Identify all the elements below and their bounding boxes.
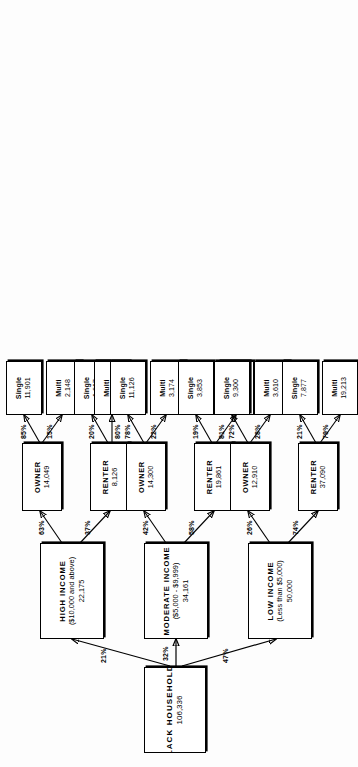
node-high-owner[interactable]: OWNER 14,049 <box>22 443 62 511</box>
leaf-label: Multi <box>55 379 64 397</box>
node-label: RENTER <box>205 460 214 495</box>
leaf-low-renter-single[interactable]: Single 7,877 <box>282 361 318 415</box>
node-label: OWNER <box>241 461 250 493</box>
leaf-value: 11,126 <box>128 377 137 398</box>
pct-high-renter-single: 20% <box>88 424 95 439</box>
leaf-label: Multi <box>159 379 168 397</box>
leaf-value: 19,213 <box>340 377 349 399</box>
leaf-value: 3,610 <box>272 379 281 397</box>
pct-high-owner-single: 85% <box>20 424 27 439</box>
pct-moderate-owner-multi: 22% <box>150 424 157 439</box>
leaf-label: Multi <box>263 379 272 397</box>
node-label: OWNER <box>33 461 42 493</box>
node-value: 34,161 <box>181 580 190 603</box>
node-high-income[interactable]: HIGH INCOME ($10,000 and above) 22,175 <box>40 543 104 639</box>
node-range: (Less than $5,000) <box>275 560 284 622</box>
leaf-value: 9,300 <box>232 379 241 397</box>
node-low-income[interactable]: LOW INCOME (Less than $5,000) 50,000 <box>248 543 312 639</box>
pct-high-income: 21% <box>100 648 107 663</box>
pct-high-renter: 37% <box>84 520 91 535</box>
node-range: ($10,000 and above) <box>67 557 76 625</box>
node-value: 19,861 <box>214 466 223 489</box>
leaf-label: Single <box>187 377 196 400</box>
leaf-moderate-owner-single[interactable]: Single 11,126 <box>110 361 146 415</box>
node-range: ($5,000 - $9,999) <box>171 563 180 620</box>
node-low-renter[interactable]: RENTER 37,090 <box>298 443 338 511</box>
pct-low-renter-multi: 79% <box>322 424 329 439</box>
node-value: 12,910 <box>250 466 259 489</box>
leaf-label: Multi <box>331 379 340 397</box>
pct-moderate-income: 32% <box>162 646 169 661</box>
leaf-label: Single <box>15 377 24 400</box>
node-label: OWNER <box>137 461 146 493</box>
pct-low-owner-single: 72% <box>228 424 235 439</box>
leaf-moderate-renter-single[interactable]: Single 3,853 <box>178 361 214 415</box>
pct-low-renter: 74% <box>292 520 299 535</box>
pct-low-income: 47% <box>222 648 229 663</box>
leaf-value: 11,901 <box>24 377 33 398</box>
leaf-label: Single <box>291 377 300 400</box>
node-value: 8,126 <box>110 468 119 487</box>
node-value: 50,000 <box>285 580 294 603</box>
node-value: 14,049 <box>42 466 51 489</box>
node-high-renter[interactable]: RENTER 8,126 <box>90 443 130 511</box>
leaf-value: 2,148 <box>64 379 73 397</box>
pct-moderate-owner: 42% <box>142 520 149 535</box>
node-label: MODERATE INCOME <box>162 547 172 636</box>
leaf-label: Single <box>119 377 128 400</box>
pct-high-owner-multi: 15% <box>46 424 53 439</box>
node-value: 14,300 <box>146 466 155 489</box>
node-label: BLACK HOUSEHOLDS <box>165 667 175 753</box>
node-black-households[interactable]: BLACK HOUSEHOLDS 106,336 <box>144 667 206 753</box>
node-label: LOW INCOME <box>266 561 276 620</box>
pct-moderate-renter-single: 19% <box>192 424 199 439</box>
node-label: HIGH INCOME <box>58 560 68 621</box>
node-label: RENTER <box>101 460 110 495</box>
pct-low-owner-multi: 28% <box>254 424 261 439</box>
pct-low-renter-single: 21% <box>296 424 303 439</box>
leaf-value: 3,853 <box>196 379 205 397</box>
leaf-low-renter-multi[interactable]: Multi 19,213 <box>322 361 358 415</box>
leaf-low-owner-single[interactable]: Single 9,300 <box>214 361 250 415</box>
node-value: 22,175 <box>77 580 86 603</box>
pct-high-renter-multi: 80% <box>114 424 121 439</box>
node-moderate-owner[interactable]: OWNER 14,300 <box>126 443 166 511</box>
node-label: RENTER <box>309 460 318 495</box>
pct-high-owner: 63% <box>38 520 45 535</box>
node-value: 37,090 <box>318 466 327 489</box>
leaf-label: Single <box>223 377 232 400</box>
leaf-label: Single <box>83 377 92 400</box>
node-moderate-renter[interactable]: RENTER 19,861 <box>194 443 234 511</box>
pct-moderate-owner-single: 78% <box>124 424 131 439</box>
pct-moderate-renter-multi: 81% <box>218 424 225 439</box>
leaf-value: 3,174 <box>168 379 177 397</box>
leaf-value: 7,877 <box>300 379 309 397</box>
pct-moderate-renter: 58% <box>188 520 195 535</box>
leaf-high-owner-single[interactable]: Single 11,901 <box>6 361 42 415</box>
node-low-owner[interactable]: OWNER 12,910 <box>230 443 270 511</box>
pct-low-owner: 26% <box>246 520 253 535</box>
node-value: 106,336 <box>175 696 185 725</box>
node-moderate-income[interactable]: MODERATE INCOME ($5,000 - $9,999) 34,161 <box>144 543 208 639</box>
